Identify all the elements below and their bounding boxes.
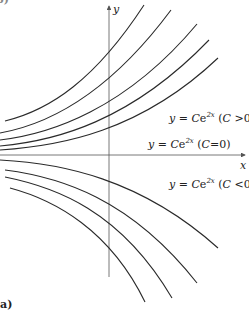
plot-area: [0, 0, 249, 314]
label-c-negative: y = Ce2x (C <0): [169, 178, 249, 190]
y-axis-label: y: [113, 4, 119, 15]
curve-c-negative-4: [10, 188, 145, 302]
diagram-figure: y x y = Ce2x (C >0) y = Ce2x (C=0) y = C…: [0, 0, 249, 314]
label-c-zero: y = Ce2x (C=0): [148, 138, 231, 150]
label-c-positive: y = Ce2x (C >0): [169, 112, 249, 124]
panel-label: a): [0, 299, 12, 310]
panel-label-fragment: b): [0, 0, 9, 5]
curve-c-positive-3: [0, 24, 197, 140]
curve-c-negative-3: [5, 177, 172, 298]
x-axis-label: x: [240, 160, 246, 171]
curve-c-positive-2: [0, 40, 209, 146]
